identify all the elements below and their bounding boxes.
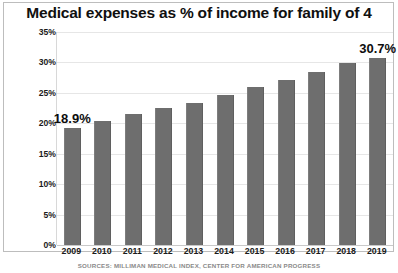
y-axis-tick-label: 5% bbox=[6, 210, 56, 220]
y-axis-tick-label: 15% bbox=[6, 149, 56, 159]
bar bbox=[94, 121, 111, 245]
bar bbox=[308, 72, 325, 245]
bar bbox=[278, 80, 295, 245]
y-axis: 0%5%10%15%20%25%30%35% bbox=[0, 32, 56, 245]
bar-group: 18.9% bbox=[57, 32, 88, 245]
bar-group bbox=[179, 32, 210, 245]
data-label: 18.9% bbox=[54, 111, 91, 126]
bar-group bbox=[332, 32, 363, 245]
source-caption: SOURCES: MILLIMAN MEDICAL INDEX, CENTER … bbox=[0, 262, 398, 269]
bar-group bbox=[240, 32, 271, 245]
bar-group: 30.7% bbox=[362, 32, 393, 245]
x-axis-tick-label: 2018 bbox=[331, 246, 362, 259]
bar-group bbox=[271, 32, 302, 245]
bar bbox=[155, 108, 172, 245]
bar bbox=[64, 128, 81, 245]
plot-area: 18.9%30.7% bbox=[56, 32, 393, 245]
bar-series: 18.9%30.7% bbox=[57, 32, 393, 245]
x-axis-tick-label: 2011 bbox=[117, 246, 148, 259]
bar bbox=[125, 114, 142, 245]
bar bbox=[186, 103, 203, 245]
y-axis-tick-label: 35% bbox=[6, 27, 56, 37]
bar bbox=[369, 58, 386, 245]
x-axis-tick-label: 2017 bbox=[300, 246, 331, 259]
x-axis-tick-label: 2013 bbox=[178, 246, 209, 259]
bar bbox=[247, 87, 264, 245]
bar bbox=[217, 95, 234, 245]
y-axis-tick-label: 25% bbox=[6, 88, 56, 98]
y-axis-tick-label: 30% bbox=[6, 57, 56, 67]
y-axis-tick-label: 20% bbox=[6, 118, 56, 128]
bar-group bbox=[118, 32, 149, 245]
y-axis-tick-label: 10% bbox=[6, 179, 56, 189]
chart-screenshot: Medical expenses as % of income for fami… bbox=[0, 0, 398, 273]
x-axis-tick-label: 2010 bbox=[87, 246, 118, 259]
bar-group bbox=[210, 32, 241, 245]
chart-title: Medical expenses as % of income for fami… bbox=[0, 4, 398, 22]
x-axis-tick-label: 2009 bbox=[56, 246, 87, 259]
x-axis: 2009201020112012201320142015201620172018… bbox=[56, 246, 392, 259]
data-label: 30.7% bbox=[359, 41, 396, 56]
y-axis-tick-label: 0% bbox=[6, 240, 56, 250]
x-axis-tick-label: 2012 bbox=[148, 246, 179, 259]
bar-group bbox=[88, 32, 119, 245]
x-axis-tick-label: 2014 bbox=[209, 246, 240, 259]
x-axis-tick-label: 2015 bbox=[239, 246, 270, 259]
bar bbox=[339, 63, 356, 245]
x-axis-tick-label: 2016 bbox=[270, 246, 301, 259]
bar-group bbox=[301, 32, 332, 245]
x-axis-tick-label: 2019 bbox=[361, 246, 392, 259]
bar-group bbox=[149, 32, 180, 245]
